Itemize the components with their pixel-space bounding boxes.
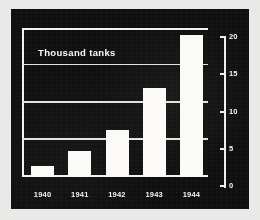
- chart-title: Thousand tanks: [38, 47, 116, 58]
- value-axis-tick-10: [220, 111, 226, 113]
- value-axis-label-15: 15: [229, 70, 238, 78]
- bar-1942: [106, 130, 129, 177]
- category-label-1940: 1940: [27, 190, 59, 200]
- value-axis-label-5: 5: [229, 145, 233, 153]
- category-label-1943: 1943: [138, 190, 170, 200]
- value-axis-spine: [224, 37, 226, 188]
- bar-1940: [31, 166, 54, 177]
- value-axis-label-0: 0: [229, 182, 233, 190]
- value-axis: 05101520: [219, 35, 249, 190]
- bar-1943: [143, 88, 166, 177]
- value-axis-tick-20: [220, 36, 226, 38]
- bar-1944: [180, 35, 203, 177]
- category-label-1942: 1942: [101, 190, 133, 200]
- value-axis-label-10: 10: [229, 108, 238, 116]
- value-axis-label-20: 20: [229, 33, 238, 41]
- value-axis-tick-5: [220, 148, 226, 150]
- category-label-1941: 1941: [64, 190, 96, 200]
- figure-root: Thousand tanks 05101520 1940194119421943…: [0, 0, 260, 220]
- bar-1941: [68, 151, 91, 177]
- chart-panel: Thousand tanks 05101520 1940194119421943…: [11, 9, 249, 209]
- category-label-1944: 1944: [175, 190, 207, 200]
- value-axis-tick-15: [220, 73, 226, 75]
- category-axis: 19401941194219431944: [22, 190, 208, 204]
- value-axis-tick-0: [220, 185, 226, 187]
